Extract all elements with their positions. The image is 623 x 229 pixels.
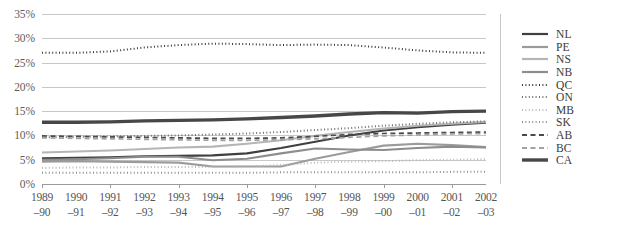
chart-screenshot: 0%5%10%15%20%25%30%35% 1989–901990–91199… (0, 0, 623, 229)
legend-label: NL (556, 28, 572, 40)
legend-swatch-nb (522, 67, 548, 77)
legend-item-mb[interactable]: MB (522, 104, 574, 117)
legend-label: CA (556, 154, 572, 166)
series-line-mb (42, 159, 486, 168)
legend-label: QC (556, 79, 572, 91)
y-axis-tick-label: 20% (14, 81, 35, 93)
x-axis-tick-mark (315, 184, 316, 188)
legend-item-sk[interactable]: SK (522, 116, 574, 129)
y-axis-tick-label: 35% (14, 8, 35, 20)
legend-item-bc[interactable]: BC (522, 141, 574, 154)
y-axis-tick-label: 10% (14, 129, 35, 141)
x-axis-labels: 1989–901990–911991–921992–931993–941994–… (42, 190, 486, 228)
y-axis-tick-label: 5% (20, 154, 35, 166)
legend-label: MB (556, 104, 574, 116)
x-label-year-end: –03 (466, 205, 506, 220)
legend-swatch-bc (522, 143, 548, 153)
legend-label: AB (556, 129, 572, 141)
legend-item-nl[interactable]: NL (522, 28, 574, 41)
x-axis-tick-mark (42, 184, 43, 188)
series-line-sk (42, 172, 486, 173)
series-line-qc (42, 44, 486, 53)
legend-item-pe[interactable]: PE (522, 41, 574, 54)
series-line-ca (42, 111, 486, 122)
legend-label: NB (556, 66, 572, 78)
legend: NLPENSNBQCONMBSKABBCCA (500, 14, 613, 184)
legend-item-nb[interactable]: NB (522, 66, 574, 79)
legend-swatch-sk (522, 117, 548, 127)
series-line-nb (42, 147, 486, 161)
legend-swatch-mb (522, 105, 548, 115)
legend-item-ns[interactable]: NS (522, 53, 574, 66)
legend-label: PE (556, 41, 570, 53)
x-axis-tick-label: 2002–03 (466, 190, 506, 220)
legend-swatch-ns (522, 54, 548, 64)
series-line-bc (42, 133, 486, 140)
legend-label: ON (556, 91, 573, 103)
x-label-year-start: 2002 (466, 190, 506, 205)
x-axis-tick-mark (110, 184, 111, 188)
y-axis-tick-label: 30% (14, 32, 35, 44)
x-axis-tick-mark (384, 184, 385, 188)
y-axis-tick-label: 25% (14, 57, 35, 69)
series-lines (42, 14, 486, 184)
x-axis-tick-mark (179, 184, 180, 188)
legend-swatch-qc (522, 80, 548, 90)
legend-label: SK (556, 116, 571, 128)
legend-label: BC (556, 142, 572, 154)
legend-swatch-ab (522, 130, 548, 140)
plot-area: 0%5%10%15%20%25%30%35% (42, 14, 486, 184)
legend-label: NS (556, 53, 571, 65)
legend-swatch-on (522, 92, 548, 102)
legend-swatch-pe (522, 42, 548, 52)
legend-swatch-nl (522, 29, 548, 39)
legend-swatch-ca (522, 155, 548, 165)
x-axis-line (42, 184, 486, 185)
legend-item-on[interactable]: ON (522, 91, 574, 104)
y-axis-tick-label: 0% (20, 178, 35, 190)
legend-item-qc[interactable]: QC (522, 78, 574, 91)
x-axis-tick-mark (452, 184, 453, 188)
legend-item-ca[interactable]: CA (522, 154, 574, 167)
legend-items: NLPENSNBQCONMBSKABBCCA (522, 28, 574, 167)
x-axis-tick-mark (247, 184, 248, 188)
y-axis-tick-label: 15% (14, 105, 35, 117)
line-chart: 0%5%10%15%20%25%30%35% 1989–901990–91199… (0, 0, 498, 229)
legend-item-ab[interactable]: AB (522, 129, 574, 142)
